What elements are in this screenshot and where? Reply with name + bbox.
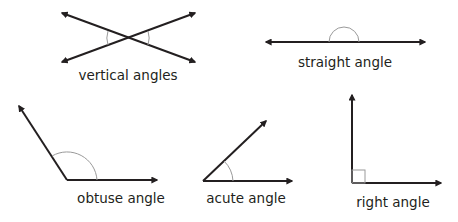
obtuse-angle-figure [19, 106, 157, 180]
acute-angle-label: acute angle [206, 190, 286, 206]
obtuse-angle-label: obtuse angle [77, 190, 165, 206]
right-angle-label: right angle [356, 194, 429, 210]
angle-diagram [0, 0, 458, 222]
acute-angle-figure [203, 121, 292, 181]
vertical-angles-label: vertical angles [78, 67, 177, 83]
vertical-angles-figure [62, 13, 195, 62]
straight-angle-label: straight angle [298, 54, 392, 70]
straight-angle-figure [266, 27, 425, 42]
right-angle-figure [352, 95, 441, 183]
